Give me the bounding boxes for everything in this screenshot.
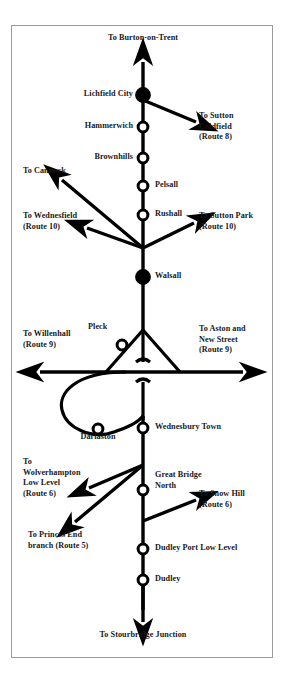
label-great-bridge-north: Great Bridge North <box>155 470 221 491</box>
label-pelsall: Pelsall <box>155 180 225 191</box>
label-to-wednesfield: To Wednesfield (Route 10) <box>23 211 109 232</box>
label-to-princes-end-branch: To Princes End branch (Route 5) <box>28 530 128 551</box>
label-to-sutton-park: To Sutton Park (Route 10) <box>199 211 277 232</box>
label-lichfield-city: Lichfield City <box>16 89 133 100</box>
label-dudley: Dudley <box>155 574 221 585</box>
label-walsall: Walsall <box>155 271 221 282</box>
label-to-aston-and-new-street: To Aston and New Street (Route 9) <box>199 324 279 356</box>
label-dudley-port-low-level: Dudley Port Low Level <box>155 543 273 554</box>
label-to-willenhall: To Willenhall (Route 9) <box>23 329 109 350</box>
route-diagram: To Burton-on-Trent Lichfield City Hammer… <box>0 0 286 677</box>
label-brownhills: Brownhills <box>16 152 133 163</box>
label-to-sutton-coldfield: To Sutton Coldfield (Route 8) <box>199 111 277 143</box>
label-to-wolverhampton-low-level: To Wolverhampton Low Level (Route 6) <box>23 457 113 499</box>
label-wednesbury-town: Wednesbury Town <box>155 422 265 433</box>
label-to-stourbridge-junction: To Stourbridge Junction <box>52 630 234 641</box>
label-darlaston: Darlaston <box>57 432 139 443</box>
label-to-snow-hill: To Snow Hill (Route 6) <box>199 489 277 510</box>
label-to-cannock: To Cannock <box>23 166 103 177</box>
label-to-burton-on-trent: To Burton-on-Trent <box>63 33 223 44</box>
label-hammerwich: Hammerwich <box>16 121 133 132</box>
